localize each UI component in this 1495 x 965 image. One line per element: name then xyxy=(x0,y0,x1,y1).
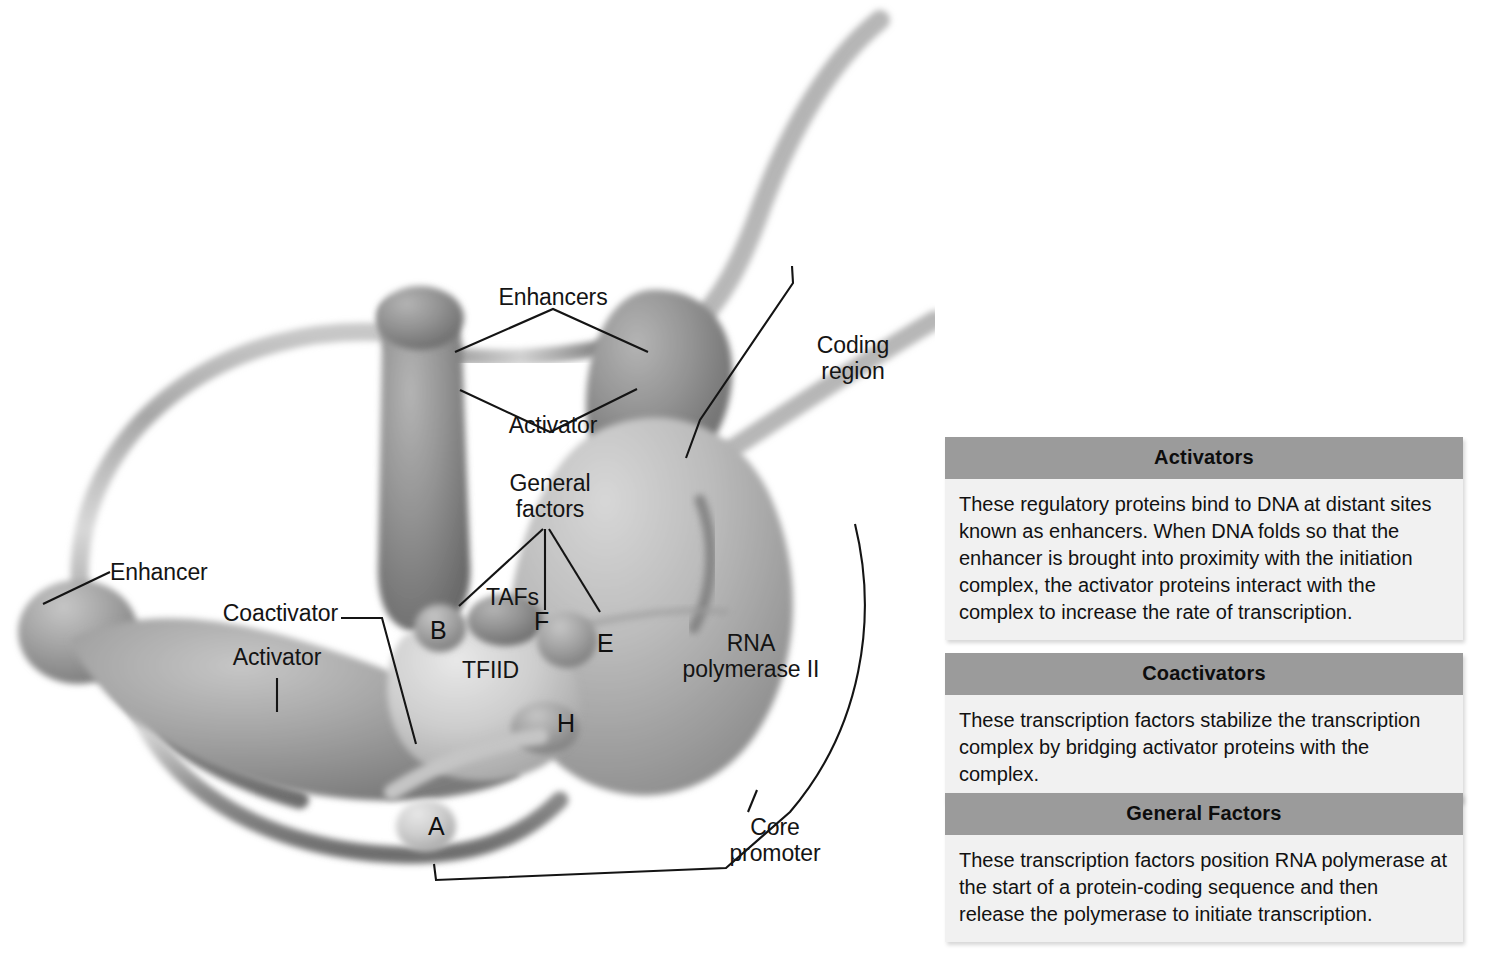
label-tafs: TAFs xyxy=(486,584,539,610)
label-coactivator: Coactivator xyxy=(126,600,338,626)
label-tfiid: TFIID xyxy=(462,657,519,683)
label-subunit-f: F xyxy=(534,607,549,636)
panel-general-factors: General Factors These transcription fact… xyxy=(945,793,1463,942)
label-subunit-b: B xyxy=(430,616,447,645)
subunit-a-body xyxy=(396,800,456,852)
panel-general-factors-title: General Factors xyxy=(945,793,1463,835)
panel-activators: Activators These regulatory proteins bin… xyxy=(945,437,1463,640)
panel-activators-body: These regulatory proteins bind to DNA at… xyxy=(945,479,1463,640)
info-panels: Activators These regulatory proteins bin… xyxy=(945,0,1463,965)
label-core-promoter: Core promoter xyxy=(700,814,850,866)
label-general-factors: General factors xyxy=(470,470,630,522)
bracket-core-promoter-tick xyxy=(748,790,757,812)
figure-root: Enhancers Activator General factors Codi… xyxy=(0,0,1495,965)
panel-coactivators-body: These transcription factors stabilize th… xyxy=(945,695,1463,802)
label-enhancer-left: Enhancer xyxy=(110,559,208,585)
panel-coactivators: Coactivators These transcription factors… xyxy=(945,653,1463,802)
label-activator-top: Activator xyxy=(470,412,636,438)
label-subunit-e: E xyxy=(597,629,614,658)
label-subunit-a: A xyxy=(428,812,445,841)
panel-activators-title: Activators xyxy=(945,437,1463,479)
label-activator-left: Activator xyxy=(199,644,355,670)
label-coding-region: Coding region xyxy=(798,332,908,384)
label-subunit-h: H xyxy=(557,709,575,738)
panel-general-factors-body: These transcription factors position RNA… xyxy=(945,835,1463,942)
dna-upper-tail xyxy=(690,20,880,330)
label-rna-polymerase: RNA polymerase II xyxy=(662,630,840,682)
panel-coactivators-title: Coactivators xyxy=(945,653,1463,695)
label-enhancers: Enhancers xyxy=(470,284,636,310)
activator-head-left xyxy=(376,286,464,350)
